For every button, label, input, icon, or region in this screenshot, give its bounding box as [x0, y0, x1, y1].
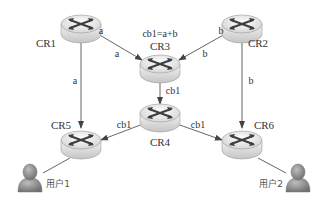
label-cr1: CR1 [36, 37, 56, 49]
edge-label-cr2-cr3: b [203, 48, 208, 59]
router-cr3[interactable] [140, 55, 180, 83]
edge-cr1-cr3 [98, 34, 142, 60]
router-cr4[interactable] [140, 104, 180, 132]
edge-cr6-user2 [258, 158, 286, 173]
edge-label-cr1-port: a [99, 25, 104, 36]
label-cr4: CR4 [150, 136, 171, 148]
edge-cr5-user1 [43, 158, 70, 173]
label-cr5: CR5 [51, 119, 72, 131]
router-icon [61, 15, 101, 43]
user-icon [18, 164, 42, 192]
edge-label-cr2-cr6: b [249, 75, 254, 86]
user-icon [286, 164, 310, 192]
label-cr6: CR6 [254, 119, 275, 131]
edge-label-cr4-cr6: cb1 [191, 119, 205, 130]
router-icon [61, 131, 101, 159]
label-user1: 用户1 [46, 178, 70, 189]
edge-label-cr2-port: b [219, 25, 224, 36]
edge-label-cr1-cr5: a [73, 75, 78, 86]
user-1[interactable] [18, 164, 42, 192]
edge-label-cr1-cr3: a [115, 48, 120, 59]
router-cr6[interactable] [222, 131, 262, 159]
edge-label-cr4-cr5: cb1 [117, 119, 131, 130]
label-user2: 用户2 [259, 178, 283, 189]
router-icon [140, 104, 180, 132]
user-2[interactable] [286, 164, 310, 192]
label-cr2: CR2 [248, 37, 268, 49]
router-icon [140, 55, 180, 83]
label-cr3: CR3 [150, 40, 171, 52]
network-diagram: CR1 CR2 CR3 CR4 CR5 CR6 cb1=a+b a b a a … [0, 0, 330, 201]
router-cr5[interactable] [61, 131, 101, 159]
router-cr1[interactable] [61, 15, 101, 43]
annotation-cb1-equation: cb1=a+b [142, 28, 177, 39]
edge-label-cr3-cr4: cb1 [166, 85, 180, 96]
router-icon [222, 131, 262, 159]
